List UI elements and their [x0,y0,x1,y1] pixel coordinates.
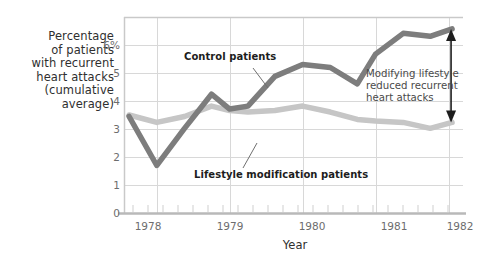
gap-callout-line-1: Modifying lifestyle [366,68,459,80]
x-tick-label-1979: 1979 [207,220,253,232]
x-tick-label-1980: 1980 [289,220,335,232]
y-tick-label-5: 5 [90,67,120,79]
series-label-lifestyle-modification-patients: Lifestyle modification patients [194,169,368,180]
y-tick-label-2: 2 [90,151,120,163]
x-axis-title: Year [255,238,335,252]
x-tick-label-1981: 1981 [371,220,417,232]
y-tick-label-1: 1 [90,179,120,191]
y-tick-label-6: 6% [90,39,120,51]
gap-callout-line-3: heart attacks [366,92,459,104]
y-tick-label-3: 3 [90,123,120,135]
plot-area-background [124,17,463,213]
y-tick-label-0: 0 [90,207,120,219]
x-tick-label-1978: 1978 [125,220,171,232]
gap-callout-text: Modifying lifestyle reduced recurrent he… [366,68,459,105]
y-tick-label-4: 4 [90,95,120,107]
x-tick-label-1982: 1982 [437,220,483,232]
chart-figure: Percentage of patients with recurrent he… [0,0,501,263]
gap-callout-line-2: reduced recurrent [366,80,459,92]
series-label-control-patients: Control patients [184,51,276,62]
